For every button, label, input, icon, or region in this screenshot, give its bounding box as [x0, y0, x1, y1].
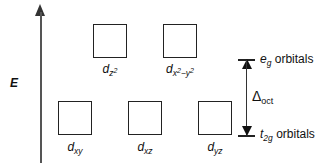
energy-axis-label: E: [10, 76, 18, 90]
delta-oct-label: Δoct: [252, 88, 273, 106]
orbital-label-dyz: dyz: [185, 140, 245, 156]
orbital-box-dxy: [58, 101, 92, 135]
orbital-box-dz2: [93, 24, 127, 58]
orbital-box-dx2-y2: [163, 24, 197, 58]
orbital-box-dxz: [128, 101, 162, 135]
splitting-arrow-line: [246, 60, 247, 136]
orbital-label-dxy: dxy: [45, 140, 105, 156]
t2g-orbitals-label: t2g orbitals: [260, 127, 315, 143]
t2g-level-bar: [238, 135, 255, 137]
orbital-box-dyz: [198, 101, 232, 135]
eg-orbitals-label: eg orbitals: [260, 52, 313, 68]
orbital-label-dxz: dxz: [115, 140, 175, 156]
orbital-label-dx2-y2: dx2−y2: [150, 62, 210, 78]
orbital-label-dz2: dz2: [80, 62, 140, 78]
energy-axis: [40, 12, 42, 163]
